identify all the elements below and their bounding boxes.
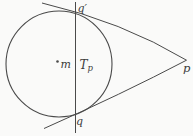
label-external-p: p	[183, 61, 191, 75]
tangent-polar-diagram: m Tp q′ q p	[0, 0, 193, 136]
label-upper-q-prime: q′	[78, 2, 88, 15]
label-lower-q: q	[76, 115, 83, 128]
label-polar-p-subscript: p	[88, 63, 94, 73]
label-center-m: m	[61, 58, 71, 71]
center-dot	[56, 60, 59, 63]
geometry-figure: m Tp q′ q p	[0, 0, 193, 136]
